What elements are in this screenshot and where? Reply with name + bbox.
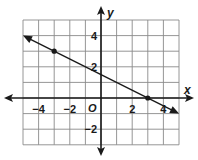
axes (4, 6, 194, 156)
x-tick-label: 4 (160, 103, 167, 115)
x-tick-label: −4 (32, 103, 45, 115)
y-tick-label: 2 (91, 61, 97, 73)
data-point (145, 95, 150, 100)
y-axis-label: y (106, 6, 115, 20)
data-point (52, 49, 57, 54)
origin-label: O (88, 102, 97, 114)
x-tick-label: 2 (129, 103, 135, 115)
x-tick-label: −2 (64, 103, 77, 115)
y-tick-label: 4 (91, 30, 98, 42)
y-tick-label: −2 (84, 123, 97, 135)
coordinate-graph: −4−22442−2 x y O (0, 0, 198, 160)
x-axis-label: x (183, 83, 192, 97)
